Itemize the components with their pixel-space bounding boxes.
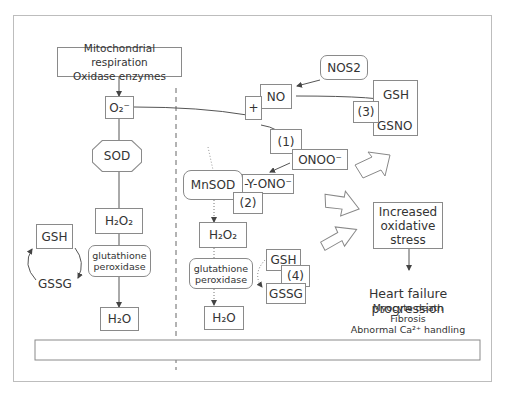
gsh-left-label: GSH — [42, 230, 68, 244]
gsh-left-box: GSH — [36, 224, 73, 249]
superoxide-label: O₂⁻ — [109, 101, 130, 115]
step2-box: (2) — [233, 192, 263, 214]
step3-box: (3) — [353, 101, 379, 123]
h2o2-right-box: H₂O₂ — [199, 222, 247, 248]
gpx-left-line1: glutathione — [92, 250, 146, 261]
gsh-top-label: GSH — [383, 88, 409, 102]
h2o-right-box: H₂O — [204, 306, 244, 330]
onoo-box: ONOO⁻ — [292, 149, 348, 170]
gssg-left-label: GSSG — [38, 277, 72, 291]
h2o-left-label: H₂O — [108, 312, 131, 326]
stress-line3: stress — [390, 233, 426, 247]
source-box: Mitochondrial respiration Oxidase enzyme… — [57, 47, 182, 77]
gpx-right-line1: glutathione — [194, 263, 248, 274]
nos2-label: NOS2 — [327, 61, 361, 75]
step4-label: (4) — [287, 269, 304, 283]
sod-label: SOD — [104, 149, 130, 163]
no-label: NO — [267, 90, 285, 104]
gssg-right-box: GSSG — [266, 283, 306, 304]
no-box: NO — [260, 84, 292, 109]
superoxide-box: O₂⁻ — [105, 96, 134, 119]
yono-box: -Y-ONO⁻ — [242, 174, 294, 194]
plus-label: + — [248, 101, 258, 115]
h2o2-right-label: H₂O₂ — [209, 228, 237, 242]
step3-label: (3) — [358, 105, 375, 119]
outcome-item-fibrosis: Fibrosis — [338, 313, 478, 324]
step1-label: (1) — [278, 135, 295, 149]
gssg-right-label: GSSG — [269, 287, 303, 301]
source-line1: Mitochondrial respiration — [58, 41, 181, 69]
plus-box: + — [245, 96, 262, 120]
stress-line1: Increased — [379, 205, 437, 219]
stress-line2: oxidative — [381, 219, 436, 233]
h2o2-left-label: H₂O₂ — [105, 214, 133, 228]
yono-label: -Y-ONO⁻ — [244, 177, 292, 191]
gsno-label: GSNO — [377, 119, 412, 133]
gpx-right-line2: peroxidase — [195, 274, 247, 285]
sod-enzyme: SOD — [92, 140, 142, 172]
h2o-right-label: H₂O — [212, 311, 235, 325]
outcome-item-calcium: Abnormal Ca²⁺ handling — [338, 324, 478, 335]
gpx-right-box: glutathione peroxidase — [189, 258, 253, 289]
step2-label: (2) — [240, 196, 257, 210]
source-line2: Oxidase enzymes — [73, 69, 166, 83]
nos2-box: NOS2 — [320, 55, 368, 80]
mnsod-label: MnSOD — [191, 178, 235, 192]
onoo-label: ONOO⁻ — [298, 153, 342, 167]
gpx-left-box: glutathione peroxidase — [88, 245, 151, 277]
h2o2-left-box: H₂O₂ — [95, 208, 143, 234]
outcome-item-myocyte: Myocyte death — [338, 302, 478, 313]
gpx-left-line2: peroxidase — [94, 261, 146, 272]
oxidative-stress-box: Increased oxidative stress — [373, 202, 443, 249]
h2o-left-box: H₂O — [100, 307, 139, 331]
